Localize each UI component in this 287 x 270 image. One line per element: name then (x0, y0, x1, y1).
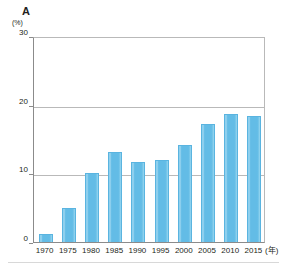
y-tick-label: 30 (2, 29, 28, 37)
bar (85, 173, 99, 242)
y-tick-label: 20 (2, 98, 28, 106)
x-tick-label: 2015 (238, 246, 268, 255)
y-tick-mark-20 (29, 106, 33, 107)
y-axis-unit-label: (%) (12, 19, 23, 27)
bar (62, 208, 76, 242)
y-tick-mark-10 (29, 174, 33, 175)
y-tick-label: 10 (2, 166, 28, 174)
bar (247, 116, 261, 242)
bar (224, 114, 238, 242)
plot-area (33, 37, 265, 243)
y-tick-label: 0 (2, 235, 28, 243)
bar (155, 160, 169, 242)
bar (108, 152, 122, 242)
y-tick-mark-0 (29, 243, 33, 244)
bar (201, 124, 215, 242)
bar (39, 234, 53, 242)
bar (131, 162, 145, 242)
panel-title: A (22, 5, 30, 17)
y-tick-mark-30 (29, 37, 33, 38)
bar-chart-figure: A (%) 1970197519801985199019952000200520… (0, 0, 287, 270)
bar (178, 145, 192, 243)
footer-divider (8, 262, 279, 263)
x-axis-unit-label: (年) (265, 246, 278, 255)
gridline-20 (34, 107, 264, 108)
